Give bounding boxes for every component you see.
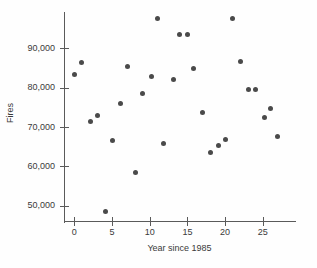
data-point xyxy=(118,101,123,106)
data-point xyxy=(223,137,228,142)
data-point xyxy=(246,87,251,92)
x-axis-tick xyxy=(225,217,226,226)
data-point xyxy=(161,141,166,146)
data-point xyxy=(238,59,243,64)
data-point xyxy=(79,60,84,65)
data-point xyxy=(262,115,267,120)
x-axis-title: Year since 1985 xyxy=(0,243,317,253)
y-axis-tick xyxy=(60,127,69,128)
data-point xyxy=(133,170,138,175)
x-axis-tick-label: 0 xyxy=(59,228,89,237)
data-point xyxy=(275,134,280,139)
data-point xyxy=(155,16,160,21)
x-axis-tick xyxy=(74,217,75,226)
x-axis-tick-label: 25 xyxy=(248,228,278,237)
data-point xyxy=(110,138,115,143)
data-point xyxy=(103,209,108,214)
x-axis-tick-label: 5 xyxy=(97,228,127,237)
data-point xyxy=(208,150,213,155)
x-axis-line xyxy=(64,221,296,222)
x-axis-tick xyxy=(112,217,113,226)
data-point xyxy=(191,66,196,71)
data-point xyxy=(125,64,130,69)
y-axis-title: Fires xyxy=(5,91,15,135)
data-point xyxy=(171,77,176,82)
plot-area: 50,00060,00070,00080,00090,000 051015202… xyxy=(0,0,317,268)
data-point xyxy=(177,32,182,37)
y-axis-tick xyxy=(60,166,69,167)
y-axis-tick xyxy=(60,48,69,49)
data-point xyxy=(88,119,93,124)
x-axis-tick-label: 15 xyxy=(172,228,202,237)
y-axis-tick xyxy=(60,206,69,207)
data-point xyxy=(268,106,273,111)
scatter-plot-figure: 50,00060,00070,00080,00090,000 051015202… xyxy=(0,0,317,268)
data-point xyxy=(72,72,77,77)
y-axis-tick-label: 90,000 xyxy=(0,44,55,53)
x-axis-tick xyxy=(150,217,151,226)
data-point xyxy=(185,32,190,37)
x-axis-tick xyxy=(263,217,264,226)
x-axis-tick xyxy=(187,217,188,226)
y-axis-tick xyxy=(60,88,69,89)
data-point xyxy=(253,87,258,92)
data-point xyxy=(140,91,145,96)
x-axis-tick-label: 20 xyxy=(210,228,240,237)
y-axis-tick-label: 60,000 xyxy=(0,162,55,171)
x-axis-tick-label: 10 xyxy=(135,228,165,237)
y-axis-tick-label: 50,000 xyxy=(0,201,55,210)
data-point xyxy=(216,143,221,148)
data-point xyxy=(95,113,100,118)
data-point xyxy=(149,74,154,79)
y-axis-line xyxy=(64,12,65,223)
data-point xyxy=(230,16,235,21)
data-point xyxy=(200,110,205,115)
